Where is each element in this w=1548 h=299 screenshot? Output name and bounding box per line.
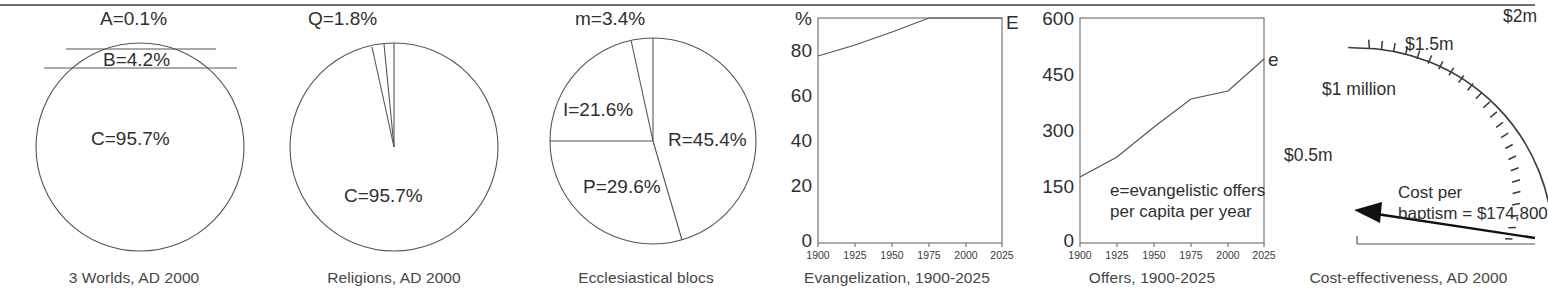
y-tick-600: 600	[1024, 8, 1074, 30]
gauge-tick-label-1-5m: $1.5m	[1405, 34, 1454, 55]
y-tick-20: 20	[774, 175, 812, 197]
label-slice-r: R=45.4%	[668, 129, 747, 151]
x-tick-1950: 1950	[872, 249, 912, 261]
panel-cost-effectiveness: $0.5m $1 million $1.5m $2m Cost per bapt…	[1282, 0, 1535, 299]
x-tick-2025: 2025	[1244, 249, 1284, 261]
x-tick-1975: 1975	[1171, 249, 1211, 261]
panel-caption-cost-effectiveness: Cost-effectiveness, AD 2000	[1282, 269, 1535, 287]
series-letter-e: e	[1268, 49, 1279, 71]
x-tick-1950: 1950	[1134, 249, 1174, 261]
x-tick-2000: 2000	[946, 249, 986, 261]
offers-annotation-line-2: per capita per year	[1110, 201, 1252, 222]
y-tick-150: 150	[1024, 176, 1074, 198]
y-tick-40: 40	[774, 130, 812, 152]
gauge-tick-label-1m: $1 million	[1322, 79, 1396, 100]
label-slice-m: m=3.4%	[575, 8, 645, 30]
gauge-pointer-label-line-1: Cost per	[1398, 182, 1462, 203]
panel-caption-evangelization: Evangelization, 1900-2025	[772, 269, 1022, 287]
label-segment-a: A=0.1%	[100, 8, 167, 30]
panel-ecclesiastical-blocs: m=3.4% I=21.6% R=45.4% P=29.6% Ecclesias…	[520, 0, 772, 299]
y-axis-label-percent: %	[774, 8, 812, 30]
y-tick-80: 80	[774, 40, 812, 62]
panel-caption-offers: Offers, 1900-2025	[1022, 269, 1282, 287]
gauge-tick-label-0-5m: $0.5m	[1284, 145, 1333, 166]
y-tick-60: 60	[774, 85, 812, 107]
x-tick-1900: 1900	[798, 249, 838, 261]
religions-pie-graphic	[268, 0, 520, 299]
panel-offers: 600 450 300 150 0 1900 1925 1950 1975 20…	[1022, 0, 1282, 299]
gauge-tick-label-2m: $2m	[1503, 6, 1537, 27]
panel-caption-ecclesiastical-blocs: Ecclesiastical blocs	[520, 269, 772, 287]
label-slice-q: Q=1.8%	[308, 8, 377, 30]
gauge-pointer-label-line-2: baptism = $174,800	[1398, 203, 1548, 224]
x-tick-1925: 1925	[1097, 249, 1137, 261]
y-tick-300: 300	[1024, 120, 1074, 142]
panel-religions: Q=1.8% C=95.7% Religions, AD 2000	[268, 0, 520, 299]
label-segment-b: B=4.2%	[103, 49, 170, 71]
label-slice-i: I=21.6%	[563, 99, 633, 121]
x-tick-2025: 2025	[982, 249, 1022, 261]
label-segment-c: C=95.7%	[91, 128, 170, 150]
label-slice-c: C=95.7%	[344, 185, 423, 207]
panel-caption-religions: Religions, AD 2000	[268, 269, 520, 287]
x-tick-1975: 1975	[909, 249, 949, 261]
panel-evangelization: % 80 60 40 20 0 1900 1925 1950 1975 2000…	[772, 0, 1022, 299]
x-tick-1900: 1900	[1060, 249, 1100, 261]
label-slice-p: P=29.6%	[583, 176, 661, 198]
series-letter-E: E	[1006, 12, 1019, 34]
panel-caption-3-worlds: 3 Worlds, AD 2000	[0, 269, 268, 287]
x-tick-2000: 2000	[1208, 249, 1248, 261]
offers-annotation-line-1: e=evangelistic offers	[1110, 180, 1265, 201]
panel-3-worlds: A=0.1% B=4.2% C=95.7% 3 Worlds, AD 2000	[0, 0, 268, 299]
x-tick-1925: 1925	[835, 249, 875, 261]
y-tick-450: 450	[1024, 64, 1074, 86]
